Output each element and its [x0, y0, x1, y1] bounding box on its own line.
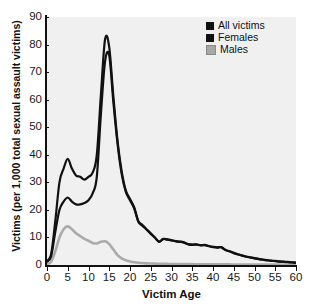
y-tick-label: 70: [2, 66, 42, 78]
y-tick-mark: [45, 72, 49, 73]
legend-item-females: Females: [206, 32, 265, 43]
y-axis-title: Victims (per 1,000 total sexual assault …: [10, 16, 22, 256]
y-tick-label: 30: [2, 176, 42, 188]
legend-label: Males: [220, 44, 248, 55]
y-tick-label: 0: [2, 259, 42, 271]
x-axis-title: Victim Age: [47, 288, 296, 300]
y-tick-label: 40: [2, 149, 42, 161]
y-tick-mark: [45, 210, 49, 211]
y-tick-mark: [45, 100, 49, 101]
y-tick-label: 90: [2, 11, 42, 23]
y-tick-label: 80: [2, 39, 42, 51]
legend-swatch-icon: [206, 45, 216, 55]
y-tick-label: 20: [2, 204, 42, 216]
y-tick-label: 60: [2, 94, 42, 106]
chart-figure: 0102030405060708090 Victims (per 1,000 t…: [0, 0, 309, 307]
legend-item-males: Males: [206, 44, 265, 55]
y-axis-line: [45, 15, 47, 267]
y-tick-mark: [45, 237, 49, 238]
chart-legend: All victimsFemalesMales: [206, 20, 265, 56]
x-tick-label: 60: [284, 272, 308, 284]
y-tick-mark: [45, 182, 49, 183]
y-tick-label: 50: [2, 121, 42, 133]
y-tick-mark: [45, 155, 49, 156]
y-tick-mark: [45, 265, 49, 266]
series-line-females: [47, 52, 296, 263]
legend-label: All victims: [218, 20, 265, 31]
legend-label: Females: [218, 32, 258, 43]
y-tick-mark: [45, 127, 49, 128]
y-tick-mark: [45, 45, 49, 46]
legend-item-all-victims: All victims: [206, 20, 265, 31]
y-tick-label: 10: [2, 231, 42, 243]
legend-swatch-icon: [206, 22, 214, 30]
y-tick-mark: [45, 17, 49, 18]
series-line-all-victims: [47, 36, 296, 263]
legend-swatch-icon: [206, 34, 214, 42]
